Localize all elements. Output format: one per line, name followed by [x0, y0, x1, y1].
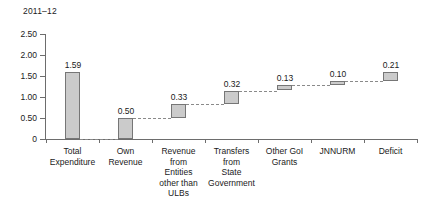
bar-value-label: 0.33 [159, 93, 199, 102]
category-label-line: State [202, 167, 261, 178]
bar-value-label: 0.21 [371, 61, 411, 70]
category-label-line: Deficit [361, 146, 420, 157]
bar [65, 72, 80, 139]
y-axis-tick [40, 139, 45, 140]
waterfall-connector [345, 81, 383, 82]
category-label-line: Grants [255, 157, 314, 168]
x-axis-tick [152, 139, 153, 143]
x-axis-tick [46, 139, 47, 143]
category-label-line: Transfers [202, 146, 261, 157]
bar [383, 72, 398, 81]
x-axis-category-label: RevenuefromEntitiesother thanULBs [149, 146, 208, 199]
y-axis-tick-label: 2.00 [5, 51, 37, 60]
waterfall-connector [186, 104, 224, 105]
x-axis-tick [364, 139, 365, 143]
bar [171, 104, 186, 118]
bar-value-label: 0.32 [212, 80, 252, 89]
y-axis-line [45, 34, 46, 139]
bar [330, 81, 345, 85]
category-label-line: Total [43, 146, 102, 157]
waterfall-connector [239, 91, 277, 92]
bar [118, 118, 133, 139]
category-label-line: Government [202, 178, 261, 189]
category-label-line: Revenue [149, 146, 208, 157]
y-axis-tick [40, 34, 45, 35]
category-label-line: Own [96, 146, 155, 157]
waterfall-connector [133, 118, 171, 119]
category-label-line: ULBs [149, 188, 208, 199]
bar-value-label: 0.10 [318, 70, 358, 79]
waterfall-chart: 2011–12 2.502.001.501.000.500 1.590.500.… [0, 0, 429, 215]
y-axis-tick [40, 76, 45, 77]
waterfall-connector [80, 139, 118, 140]
y-axis-tick-label: 0.50 [5, 114, 37, 123]
plot-area: 2.502.001.501.000.500 1.590.500.330.320.… [0, 0, 429, 215]
bar-value-label: 0.50 [106, 107, 146, 116]
waterfall-connector [292, 85, 330, 86]
y-axis-tick [40, 97, 45, 98]
x-axis-category-label: TotalExpenditure [43, 146, 102, 167]
y-axis-tick-label: 1.50 [5, 72, 37, 81]
x-axis-tick [258, 139, 259, 143]
category-label-line: JNNURM [308, 146, 367, 157]
y-axis-tick [40, 118, 45, 119]
category-label-line: Entities [149, 167, 208, 178]
x-axis-tick [417, 139, 418, 143]
category-label-line: from [202, 157, 261, 168]
x-axis-category-label: Deficit [361, 146, 420, 157]
bar-value-label: 1.59 [53, 61, 93, 70]
x-axis-category-label: TransfersfromStateGovernment [202, 146, 261, 188]
y-axis-tick-label: 1.00 [5, 93, 37, 102]
category-label-line: from [149, 157, 208, 168]
y-axis-tick-label: 0 [5, 135, 37, 144]
x-axis-tick [311, 139, 312, 143]
bar [277, 85, 292, 90]
category-label-line: Other GoI [255, 146, 314, 157]
bar-value-label: 0.13 [265, 74, 305, 83]
category-label-line: other than [149, 178, 208, 189]
bar [224, 91, 239, 104]
x-axis-tick [205, 139, 206, 143]
category-label-line: Expenditure [43, 157, 102, 168]
y-axis-tick [40, 55, 45, 56]
x-axis-category-label: OwnRevenue [96, 146, 155, 167]
x-axis-category-label: JNNURM [308, 146, 367, 157]
category-label-line: Revenue [96, 157, 155, 168]
y-axis-tick-label: 2.50 [5, 30, 37, 39]
x-axis-category-label: Other GoIGrants [255, 146, 314, 167]
